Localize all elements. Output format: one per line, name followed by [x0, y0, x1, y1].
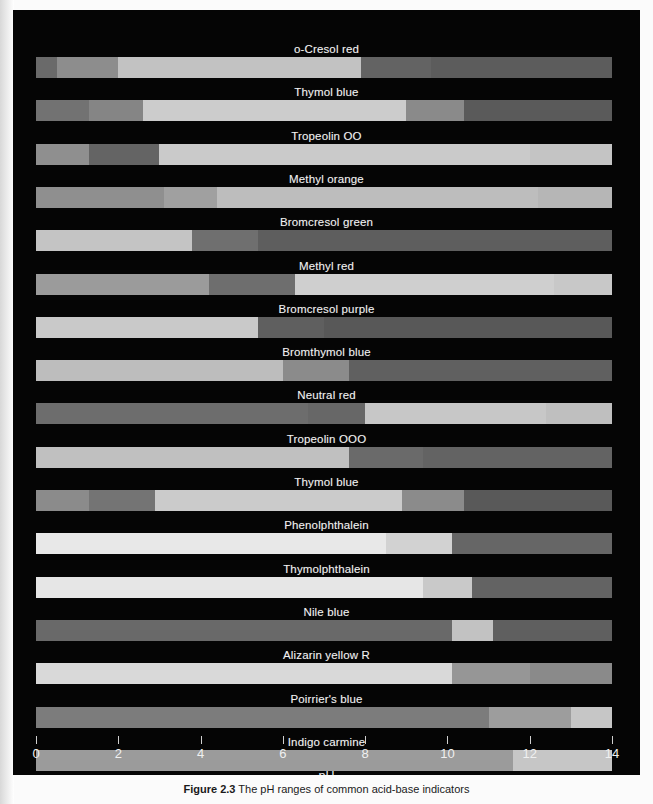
- axis-tick-label: 14: [605, 746, 619, 761]
- indicator-color-segment: [324, 317, 612, 338]
- indicator-name-label: Thymol blue: [13, 85, 640, 99]
- indicator-range-bar: [36, 490, 612, 511]
- caption-number: Figure 2.3: [184, 783, 236, 795]
- ph-axis: 02468101214 pH: [13, 736, 640, 775]
- indicator-range-bar: [36, 187, 612, 208]
- indicator-range-bar: [36, 533, 612, 554]
- axis-tick-label: 2: [115, 746, 122, 761]
- indicator-color-segment: [530, 663, 612, 684]
- indicator-range-bar: [36, 57, 612, 78]
- axis-tick-label: 8: [362, 746, 369, 761]
- indicator-name-label: Tropeolin OOO: [13, 432, 640, 446]
- indicator-color-segment: [546, 403, 612, 424]
- indicator-color-segment: [349, 360, 612, 381]
- axis-tick-label: 0: [32, 746, 39, 761]
- indicator-color-segment: [295, 274, 555, 295]
- indicator-name-label: Bromthymol blue: [13, 345, 640, 359]
- indicator-color-segment: [36, 620, 452, 641]
- indicator-color-segment: [143, 100, 407, 121]
- indicator-name-label: Neutral red: [13, 388, 640, 402]
- axis-title: pH: [13, 769, 640, 775]
- indicator-color-segment: [464, 100, 612, 121]
- indicator-name-label: Phenolphthalein: [13, 518, 640, 532]
- indicator-color-segment: [258, 230, 612, 251]
- indicator-color-segment: [423, 447, 612, 468]
- indicator-color-segment: [431, 57, 612, 78]
- indicator-range-bar: [36, 577, 612, 598]
- indicator-color-segment: [452, 533, 612, 554]
- indicator-color-segment: [452, 620, 494, 641]
- axis-tick-label: 6: [279, 746, 286, 761]
- indicator-color-segment: [554, 274, 612, 295]
- indicator-color-segment: [118, 57, 361, 78]
- indicator-color-segment: [349, 447, 424, 468]
- axis-tick-label: 4: [197, 746, 204, 761]
- axis-tick-mark: [201, 736, 202, 744]
- indicator-color-segment: [36, 403, 308, 424]
- indicator-color-segment: [36, 187, 164, 208]
- axis-tick-mark: [530, 736, 531, 744]
- indicator-color-segment: [258, 317, 324, 338]
- indicator-color-segment: [89, 144, 160, 165]
- indicator-name-label: Methyl orange: [13, 172, 640, 186]
- indicator-range-bar: [36, 100, 612, 121]
- indicator-range-bar: [36, 403, 612, 424]
- axis-tick-mark: [447, 736, 448, 744]
- indicator-range-bar: [36, 274, 612, 295]
- indicator-color-segment: [36, 490, 90, 511]
- indicator-color-segment: [89, 100, 143, 121]
- indicator-color-segment: [36, 663, 452, 684]
- indicator-range-bar: [36, 447, 612, 468]
- indicator-color-segment: [402, 490, 464, 511]
- indicator-color-segment: [493, 620, 612, 641]
- indicator-color-segment: [36, 577, 423, 598]
- ph-indicator-figure: o-Cresol redThymol blueTropeolin OOMethy…: [13, 10, 640, 775]
- indicator-range-bar: [36, 317, 612, 338]
- indicator-color-segment: [36, 57, 57, 78]
- indicator-color-segment: [36, 360, 283, 381]
- indicator-color-segment: [159, 144, 530, 165]
- indicator-color-segment: [36, 707, 489, 728]
- indicator-color-segment: [571, 707, 612, 728]
- indicator-color-segment: [308, 403, 366, 424]
- indicator-name-label: o-Cresol red: [13, 42, 640, 56]
- axis-tick-label: 12: [522, 746, 536, 761]
- indicator-range-bar: [36, 663, 612, 684]
- indicator-color-segment: [36, 447, 349, 468]
- caption-text: The pH ranges of common acid-base indica…: [238, 783, 469, 795]
- axis-tick-mark: [365, 736, 366, 744]
- indicator-color-segment: [36, 144, 90, 165]
- axis-tick-mark: [283, 736, 284, 744]
- indicator-name-label: Alizarin yellow R: [13, 648, 640, 662]
- indicator-color-segment: [36, 230, 193, 251]
- indicator-color-segment: [489, 707, 572, 728]
- axis-tick-mark: [612, 736, 613, 744]
- indicator-range-bar: [36, 230, 612, 251]
- indicator-range-bar: [36, 620, 612, 641]
- indicator-color-segment: [36, 100, 90, 121]
- indicator-color-segment: [365, 403, 547, 424]
- indicator-color-segment: [538, 187, 612, 208]
- indicator-color-segment: [36, 274, 209, 295]
- indicator-name-label: Methyl red: [13, 259, 640, 273]
- axis-tick-mark: [36, 736, 37, 744]
- indicator-color-segment: [406, 100, 464, 121]
- indicator-color-segment: [472, 577, 612, 598]
- indicator-color-segment: [361, 57, 432, 78]
- indicator-name-label: Poirrier's blue: [13, 692, 640, 706]
- indicator-range-bar: [36, 144, 612, 165]
- indicator-color-segment: [36, 317, 259, 338]
- indicator-color-segment: [217, 187, 539, 208]
- indicator-color-segment: [464, 490, 612, 511]
- indicator-color-segment: [386, 533, 452, 554]
- indicator-name-label: Bromcresol green: [13, 215, 640, 229]
- indicator-color-segment: [36, 533, 386, 554]
- indicator-color-segment: [423, 577, 473, 598]
- indicator-name-label: Thymol blue: [13, 475, 640, 489]
- indicator-name-label: Bromcresol purple: [13, 302, 640, 316]
- indicator-color-segment: [452, 663, 531, 684]
- indicator-color-segment: [89, 490, 155, 511]
- indicator-color-segment: [530, 144, 612, 165]
- indicator-color-segment: [209, 274, 296, 295]
- axis-tick-mark: [118, 736, 119, 744]
